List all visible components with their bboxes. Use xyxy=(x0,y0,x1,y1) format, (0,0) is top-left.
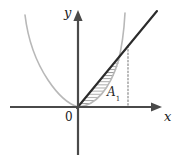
region-label-A1: A1 xyxy=(107,86,120,101)
x-axis-arrowhead xyxy=(151,102,162,111)
y-axis-arrowhead xyxy=(73,10,82,21)
region-label-subscript: 1 xyxy=(116,95,120,103)
x-axis-label: x xyxy=(164,110,171,123)
y-axis-label: y xyxy=(64,6,71,19)
region-label-main: A xyxy=(107,85,116,99)
origin-label: 0 xyxy=(65,111,73,123)
y-axis xyxy=(73,10,82,155)
figure-canvas xyxy=(0,0,176,167)
math-figure: y x 0 A1 xyxy=(0,0,176,167)
shaded-region-A1 xyxy=(70,22,140,115)
